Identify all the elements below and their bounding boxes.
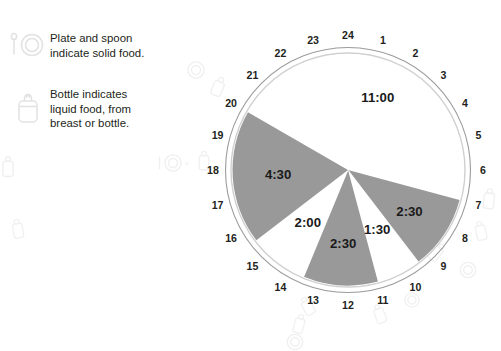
hour-label-7: 7 (475, 199, 481, 211)
pie-slice-label: 2:00 (295, 215, 321, 230)
plate-and-spoon-icon (6, 30, 50, 59)
legend-item-liquid-food-label: Bottle indicates liquid food, from breas… (50, 86, 131, 131)
pie-slice-label: 11:00 (361, 90, 394, 105)
hour-label-5: 5 (475, 129, 481, 141)
pie-slice-label: 2:30 (330, 236, 356, 251)
hour-label-12: 12 (342, 299, 354, 311)
hour-label-2: 2 (413, 47, 419, 59)
hour-label-17: 17 (212, 199, 224, 211)
hour-label-24: 24 (342, 29, 354, 41)
hour-label-10: 10 (410, 281, 422, 293)
hour-label-6: 6 (480, 164, 486, 176)
hour-label-15: 15 (247, 260, 259, 272)
hour-label-3: 3 (441, 69, 447, 81)
hour-label-22: 22 (275, 47, 287, 59)
hour-label-19: 19 (212, 129, 224, 141)
pie-slice-label: 2:30 (396, 204, 422, 219)
hour-label-23: 23 (307, 34, 319, 46)
feeding-clock-chart: 11:002:301:302:302:004:30 12345678910111… (185, 22, 501, 332)
hour-label-13: 13 (307, 294, 319, 306)
legend: Plate and spoon indicate solid food. Bot… (6, 30, 176, 157)
hour-label-4: 4 (462, 97, 468, 109)
baby-bottle-icon (6, 86, 50, 127)
watermark-bottle-icon (11, 219, 24, 239)
hour-label-8: 8 (462, 232, 468, 244)
pie-slice-label: 1:30 (364, 222, 390, 237)
hour-label-1: 1 (380, 34, 386, 46)
legend-item-solid-food: Plate and spoon indicate solid food. (6, 30, 176, 60)
hour-label-11: 11 (377, 294, 388, 306)
watermark-plate-icon (287, 334, 302, 349)
legend-item-solid-food-label: Plate and spoon indicate solid food. (50, 30, 144, 60)
legend-item-liquid-food: Bottle indicates liquid food, from breas… (6, 86, 176, 131)
hour-label-9: 9 (441, 260, 447, 272)
pie-slice-label: 4:30 (265, 167, 291, 182)
hour-label-20: 20 (225, 97, 237, 109)
hour-label-18: 18 (207, 164, 219, 176)
hour-label-16: 16 (225, 232, 237, 244)
hour-label-21: 21 (247, 69, 259, 81)
hour-label-14: 14 (275, 281, 287, 293)
watermark-bottle-icon (3, 157, 13, 177)
